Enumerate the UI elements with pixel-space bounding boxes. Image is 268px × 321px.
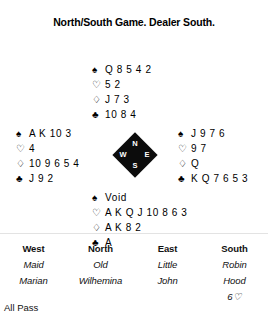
hand-east: ♠ J 9 7 6 ♡ 9 7 ♢ Q ♣ K Q 7 6 5 3 <box>178 126 248 186</box>
player-name-north-1: Old <box>67 257 134 273</box>
club-icon: ♣ <box>16 171 29 186</box>
club-icon: ♣ <box>92 107 105 122</box>
spade-icon: ♠ <box>92 62 105 77</box>
west-clubs-row: ♣ J 9 2 <box>16 171 79 186</box>
bridge-hand-diagram: ♠ Q 8 5 4 2 ♡ 5 2 ♢ J 7 3 ♣ 10 8 4 ♠ A K… <box>0 28 268 233</box>
player-name-west-1: Maid <box>0 257 67 273</box>
bid-call-south: 6♡ <box>201 289 268 305</box>
player-name-east-2: John <box>134 273 201 289</box>
heart-icon: ♡ <box>178 141 191 156</box>
bid-call-north <box>67 289 134 305</box>
heart-icon: ♡ <box>92 77 105 92</box>
all-pass-label: All Pass <box>4 302 38 314</box>
west-spades-cards: A K 10 3 <box>29 126 72 141</box>
bidding-header-south: South <box>201 241 268 257</box>
bidding-player-name-row-2: Marian Wilhemina John Hood <box>0 273 268 289</box>
club-icon: ♣ <box>178 171 191 186</box>
east-spades-cards: J 9 7 6 <box>191 126 225 141</box>
north-diamonds-cards: J 7 3 <box>105 92 130 107</box>
north-clubs-row: ♣ 10 8 4 <box>92 107 152 122</box>
player-name-south-1: Robin <box>201 257 268 273</box>
east-diamonds-cards: Q <box>191 156 199 171</box>
west-clubs-cards: J 9 2 <box>29 171 54 186</box>
north-clubs-cards: 10 8 4 <box>105 107 136 122</box>
spade-icon: ♠ <box>92 190 105 205</box>
north-hearts-cards: 5 2 <box>105 77 121 92</box>
hand-west: ♠ A K 10 3 ♡ 4 ♢ 10 9 6 5 4 ♣ J 9 2 <box>16 126 79 186</box>
player-name-west-2: Marian <box>0 273 67 289</box>
player-name-north-2: Wilhemina <box>67 273 134 289</box>
player-name-south-2: Hood <box>201 273 268 289</box>
east-diamonds-row: ♢ Q <box>178 156 248 171</box>
bidding-header-row: West North East South <box>0 241 268 257</box>
west-hearts-cards: 4 <box>29 141 35 156</box>
east-clubs-cards: K Q 7 6 5 3 <box>191 171 248 186</box>
west-spades-row: ♠ A K 10 3 <box>16 126 79 141</box>
bidding-header-east: East <box>134 241 201 257</box>
west-diamonds-row: ♢ 10 9 6 5 4 <box>16 156 79 171</box>
bidding-player-name-row-1: Maid Old Little Robin <box>0 257 268 273</box>
hand-north: ♠ Q 8 5 4 2 ♡ 5 2 ♢ J 7 3 ♣ 10 8 4 <box>92 62 152 122</box>
compass-south-label: S <box>130 162 140 170</box>
spade-icon: ♠ <box>16 126 29 141</box>
compass-north-label: N <box>130 140 140 148</box>
south-spades-cards: Void <box>105 190 127 205</box>
east-hearts-cards: 9 7 <box>191 141 207 156</box>
compass-east-label: E <box>142 151 152 159</box>
player-name-east-1: Little <box>134 257 201 273</box>
east-hearts-row: ♡ 9 7 <box>178 141 248 156</box>
section-divider <box>0 233 268 234</box>
bidding-header-west: West <box>0 241 67 257</box>
diamond-icon: ♢ <box>16 156 29 171</box>
spade-icon: ♠ <box>178 126 191 141</box>
east-clubs-row: ♣ K Q 7 6 5 3 <box>178 171 248 186</box>
diamond-icon: ♢ <box>92 92 105 107</box>
north-diamonds-row: ♢ J 7 3 <box>92 92 152 107</box>
south-hearts-row: ♡ A K Q J 10 8 6 3 <box>92 205 187 220</box>
heart-icon: ♡ <box>92 205 105 220</box>
compass-west-label: W <box>118 151 128 159</box>
north-hearts-row: ♡ 5 2 <box>92 77 152 92</box>
bidding-table: West North East South Maid Old Little Ro… <box>0 241 268 305</box>
west-hearts-row: ♡ 4 <box>16 141 79 156</box>
page-title: North/South Game. Dealer South. <box>0 0 268 28</box>
bidding-call-row: 6♡ <box>0 289 268 305</box>
south-hearts-cards: A K Q J 10 8 6 3 <box>105 205 187 220</box>
north-spades-row: ♠ Q 8 5 4 2 <box>92 62 152 77</box>
west-diamonds-cards: 10 9 6 5 4 <box>29 156 79 171</box>
bidding-header-north: North <box>67 241 134 257</box>
north-spades-cards: Q 8 5 4 2 <box>105 62 152 77</box>
compass-rose: N W E S <box>112 132 158 178</box>
diamond-icon: ♢ <box>178 156 191 171</box>
bid-call-east <box>134 289 201 305</box>
east-spades-row: ♠ J 9 7 6 <box>178 126 248 141</box>
heart-icon: ♡ <box>16 141 29 156</box>
south-spades-row: ♠ Void <box>92 190 187 205</box>
